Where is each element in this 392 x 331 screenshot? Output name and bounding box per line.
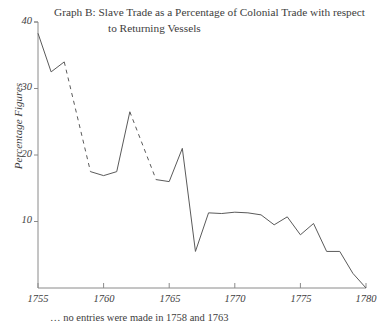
data-line-solid (90, 112, 129, 176)
data-series-slave-trade-percentage (38, 33, 366, 288)
plot-area (0, 0, 392, 331)
axes (34, 22, 366, 288)
data-line-solid (156, 148, 366, 288)
y-axis-ticks (34, 22, 38, 222)
chart-footnote: … no entries were made in 1758 and 1763 (50, 312, 228, 323)
data-line-solid (38, 33, 64, 72)
chart-figure: Graph B: Slave Trade as a Percentage of … (0, 0, 392, 331)
x-axis-ticks (38, 283, 366, 288)
data-line-dashed-1757-1759 (64, 62, 90, 172)
data-line-dashed-1762-1764 (130, 112, 156, 180)
